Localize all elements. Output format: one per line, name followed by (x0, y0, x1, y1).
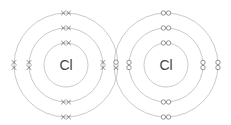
electron-dot-icon (166, 41, 170, 45)
electron-dot-icon (127, 60, 131, 64)
electron-dot-icon (161, 26, 165, 30)
cl2-bond-diagram: Cl Cl (0, 0, 231, 125)
right-atom-symbol: Cl (159, 57, 172, 73)
electron-dot-icon (127, 65, 131, 69)
electron-dot-icon (114, 60, 118, 64)
electron-dot-icon (216, 60, 220, 64)
electron-dot-icon (216, 65, 220, 69)
electron-dot-icon (166, 11, 170, 15)
electron-dot-icon (166, 115, 170, 119)
diagram-canvas: Cl Cl (0, 0, 231, 125)
left-atom-symbol: Cl (59, 57, 72, 73)
electron-dot-icon (166, 100, 170, 104)
electron-dot-icon (161, 115, 165, 119)
electron-dot-icon (201, 65, 205, 69)
electron-dot-icon (161, 11, 165, 15)
electron-dot-icon (161, 41, 165, 45)
electron-dot-icon (166, 26, 170, 30)
right-electron-dots (127, 11, 220, 119)
electron-dot-icon (201, 60, 205, 64)
right-chlorine-atom: Cl (114, 11, 220, 119)
electron-dot-icon (161, 100, 165, 104)
left-chlorine-atom: Cl (12, 11, 118, 119)
